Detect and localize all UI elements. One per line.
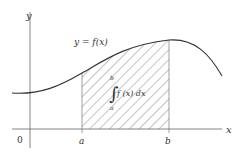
upper-bound-label: b [165,136,171,146]
integral-integrand: f (x) dx [116,89,146,98]
integral-expression: b ∫ f (x) dx a [108,74,152,111]
integral-upper-limit: b [110,74,114,81]
y-axis-label: y [25,10,32,21]
integral-diagram: y x 0 a b y = f(x) b ∫ f (x) dx a [0,0,237,160]
x-axis-label: x [226,124,232,135]
lower-bound-label: a [79,136,84,146]
curve-label: y = f(x) [73,37,108,47]
origin-label: 0 [17,135,23,145]
integral-lower-limit: a [110,104,114,111]
